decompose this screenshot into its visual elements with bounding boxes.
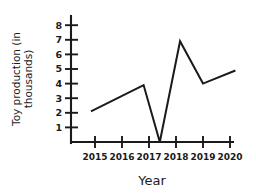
y-axis-title: Toy production (in thousands): [10, 32, 34, 127]
x-tick-label-2015: 2015: [82, 152, 107, 162]
y-tick-label-4: 4: [55, 78, 62, 89]
x-tick-label-2016: 2016: [109, 152, 134, 162]
y-tick-label-2: 2: [55, 107, 62, 118]
data-series-line: [91, 41, 235, 142]
x-tick-label-2020: 2020: [217, 152, 242, 162]
chart-canvas: 1 2 3 4 5 6 7 8 2015 2016 2017 2018 2019…: [0, 0, 256, 193]
x-tick-label-2018: 2018: [163, 152, 188, 162]
y-tick-label-6: 6: [55, 49, 62, 60]
x-tick-label-2019: 2019: [190, 152, 215, 162]
x-axis-title: Year: [137, 173, 166, 188]
y-tick-label-8: 8: [55, 20, 62, 31]
line-chart: 1 2 3 4 5 6 7 8 2015 2016 2017 2018 2019…: [0, 0, 256, 193]
y-tick-label-1: 1: [55, 122, 62, 133]
y-tick-label-7: 7: [55, 34, 62, 45]
y-axis-title-line2: thousands): [22, 50, 34, 109]
y-axis-title-line1: Toy production (in: [10, 32, 22, 127]
y-tick-label-5: 5: [55, 63, 62, 74]
x-tick-label-2017: 2017: [136, 152, 161, 162]
y-tick-label-3: 3: [55, 93, 62, 104]
